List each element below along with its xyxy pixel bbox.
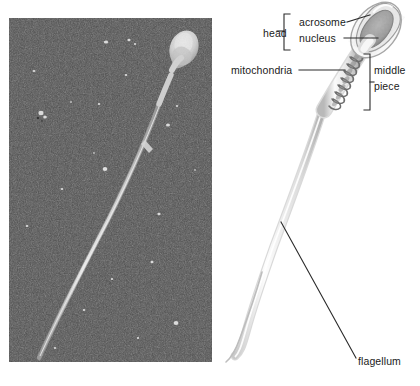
micrograph-canvas (9, 18, 212, 362)
sperm-schematic-diagram (218, 0, 420, 386)
label-piece: piece (374, 80, 400, 92)
label-nucleus: nucleus (299, 32, 336, 44)
flagellum-leader (281, 222, 356, 358)
label-acrosome: acrosome (299, 16, 346, 28)
label-middle: middle (374, 64, 406, 76)
figure-root: head acrosome nucleus mitochondria middl… (0, 0, 420, 386)
middle-piece-bracket (364, 54, 370, 110)
schematic-flagellum-highlight (235, 114, 321, 357)
schematic-canvas (218, 0, 420, 386)
label-flagellum: flagellum (358, 355, 401, 367)
label-mitochondria: mitochondria (231, 64, 292, 76)
label-head: head (263, 27, 287, 39)
sperm-micrograph-photo (9, 18, 212, 362)
photo-overlay-grain (9, 18, 212, 362)
